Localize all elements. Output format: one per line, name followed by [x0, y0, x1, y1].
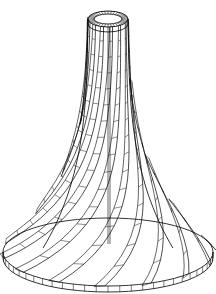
impeller-drawing — [0, 0, 216, 294]
impeller-wireframe-svg — [0, 0, 216, 294]
hub-cone — [43, 19, 173, 248]
